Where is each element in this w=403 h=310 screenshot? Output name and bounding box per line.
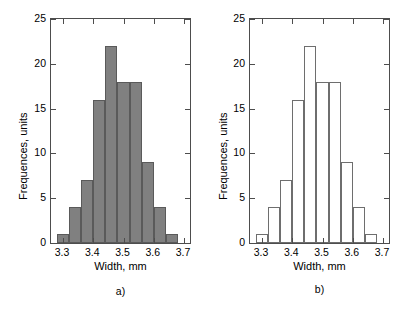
- x-axis-tick: [154, 238, 155, 243]
- y-axis-tick-label: 25: [219, 12, 245, 24]
- x-axis-tick-label: 3.4: [284, 246, 299, 258]
- histogram-bar: [268, 207, 280, 243]
- y-axis-tick: [51, 109, 56, 110]
- x-axis-tick-label: 3.3: [55, 246, 70, 258]
- y-axis-tick-right: [185, 198, 190, 199]
- histogram-bar: [353, 207, 365, 243]
- y-axis-tick: [250, 109, 255, 110]
- x-axis-tick-top: [63, 19, 64, 24]
- y-axis-tick-right: [384, 198, 389, 199]
- histogram-bar: [130, 82, 142, 243]
- x-axis-tick: [292, 238, 293, 243]
- x-axis-tick-top: [383, 19, 384, 24]
- y-axis-tick-label: 20: [219, 57, 245, 69]
- histogram-figure: Frequences, units Width, mm a) 051015202…: [0, 0, 403, 310]
- panel-a-caption: a): [50, 285, 191, 297]
- x-axis-tick-label: 3.7: [176, 246, 191, 258]
- y-axis-tick-right: [185, 64, 190, 65]
- y-axis-tick-label: 0: [219, 236, 245, 248]
- y-axis-tick-right: [185, 109, 190, 110]
- y-axis-tick-label: 15: [20, 102, 46, 114]
- x-axis-tick-label: 3.5: [314, 246, 329, 258]
- y-axis-tick: [51, 198, 56, 199]
- y-axis-tick: [51, 243, 56, 244]
- x-axis-tick: [353, 238, 354, 243]
- panel-b-x-axis-title: Width, mm: [249, 260, 390, 272]
- x-axis-tick-top: [154, 19, 155, 24]
- x-axis-tick: [63, 238, 64, 243]
- y-axis-tick-label: 25: [20, 12, 46, 24]
- histogram-bar: [316, 82, 328, 243]
- x-axis-tick-label: 3.3: [254, 246, 269, 258]
- histogram-bar: [280, 180, 292, 243]
- y-axis-tick-label: 0: [20, 236, 46, 248]
- y-axis-tick: [250, 153, 255, 154]
- x-axis-tick-label: 3.6: [344, 246, 359, 258]
- histogram-bar: [304, 46, 316, 243]
- x-axis-tick-top: [93, 19, 94, 24]
- y-axis-tick-label: 5: [219, 191, 245, 203]
- y-axis-tick: [250, 243, 255, 244]
- y-axis-tick-right: [185, 243, 190, 244]
- x-axis-tick: [124, 238, 125, 243]
- histogram-bar: [341, 162, 353, 243]
- x-axis-tick-top: [262, 19, 263, 24]
- x-axis-tick: [184, 238, 185, 243]
- y-axis-tick: [250, 19, 255, 20]
- y-axis-tick-label: 10: [20, 146, 46, 158]
- histogram-bar: [166, 234, 178, 243]
- x-axis-tick-top: [323, 19, 324, 24]
- panel-b-caption: b): [249, 283, 390, 295]
- y-axis-tick: [51, 64, 56, 65]
- y-axis-tick-right: [384, 153, 389, 154]
- histogram-bar: [69, 207, 81, 243]
- x-axis-tick-top: [292, 19, 293, 24]
- x-axis-tick: [383, 238, 384, 243]
- histogram-bar: [142, 162, 154, 243]
- panel-b-bars: [250, 19, 389, 243]
- y-axis-tick-right: [384, 19, 389, 20]
- x-axis-tick-top: [184, 19, 185, 24]
- panel-b-plot-area: [249, 18, 390, 244]
- x-axis-tick-label: 3.7: [375, 246, 390, 258]
- panel-a-plot-area: [50, 18, 191, 244]
- panel-a: Frequences, units Width, mm a) 051015202…: [0, 0, 201, 310]
- y-axis-tick-label: 5: [20, 191, 46, 203]
- panel-b: Frequences, units Width, mm b) 051015202…: [201, 0, 403, 310]
- y-axis-tick: [51, 153, 56, 154]
- x-axis-tick: [323, 238, 324, 243]
- y-axis-tick-right: [384, 109, 389, 110]
- y-axis-tick-right: [384, 64, 389, 65]
- histogram-bar: [93, 100, 105, 243]
- x-axis-tick-top: [124, 19, 125, 24]
- y-axis-tick: [250, 64, 255, 65]
- x-axis-tick-top: [353, 19, 354, 24]
- x-axis-tick-label: 3.4: [85, 246, 100, 258]
- histogram-bar: [329, 82, 341, 243]
- histogram-bar: [117, 82, 129, 243]
- x-axis-tick: [262, 238, 263, 243]
- histogram-bar: [292, 100, 304, 243]
- x-axis-tick-label: 3.5: [115, 246, 130, 258]
- histogram-bar: [81, 180, 93, 243]
- panel-a-x-axis-title: Width, mm: [50, 260, 191, 272]
- histogram-bar: [365, 234, 377, 243]
- y-axis-tick: [51, 19, 56, 20]
- y-axis-tick-label: 10: [219, 146, 245, 158]
- y-axis-tick-right: [185, 153, 190, 154]
- y-axis-tick-right: [185, 19, 190, 20]
- y-axis-tick-right: [384, 243, 389, 244]
- histogram-bar: [105, 46, 117, 243]
- x-axis-tick: [93, 238, 94, 243]
- y-axis-tick-label: 15: [219, 102, 245, 114]
- panel-a-bars: [51, 19, 190, 243]
- y-axis-tick-label: 20: [20, 57, 46, 69]
- histogram-bar: [154, 207, 166, 243]
- y-axis-tick: [250, 198, 255, 199]
- x-axis-tick-label: 3.6: [145, 246, 160, 258]
